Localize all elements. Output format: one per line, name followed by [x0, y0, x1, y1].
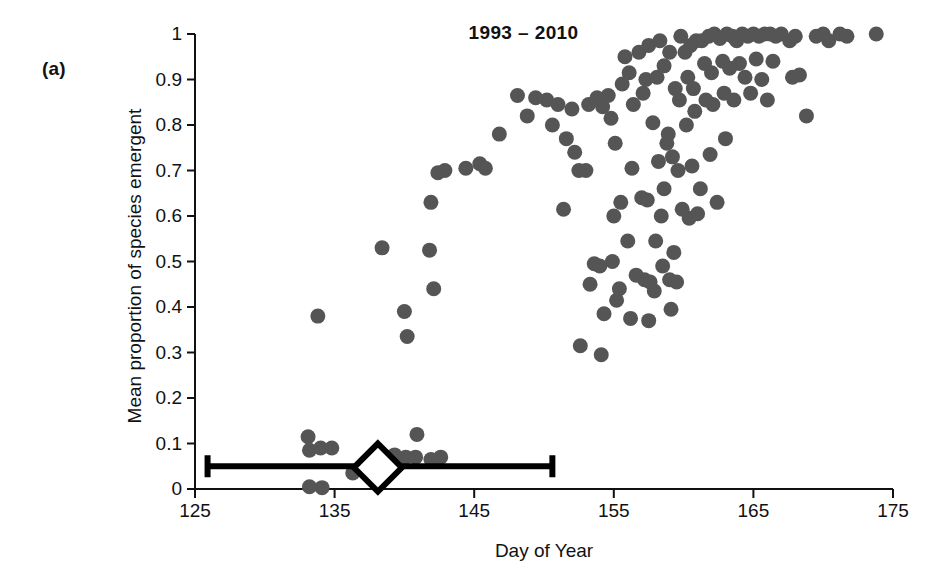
data-points-layer: [301, 27, 884, 496]
data-point: [710, 195, 725, 210]
data-point: [315, 480, 330, 495]
data-point: [651, 154, 666, 169]
data-point: [641, 313, 656, 328]
data-point: [478, 161, 493, 176]
summary-marker-layer: [208, 444, 553, 492]
data-point: [520, 108, 535, 123]
data-point: [550, 97, 565, 112]
data-point: [661, 127, 676, 142]
data-point: [397, 304, 412, 319]
figure-panel-a: (a) 1993 – 2010 Mean proportion of speci…: [0, 0, 947, 582]
data-point: [648, 234, 663, 249]
data-point: [665, 149, 680, 164]
data-point: [760, 92, 775, 107]
data-point: [684, 158, 699, 173]
data-point: [869, 27, 884, 42]
data-point: [606, 209, 621, 224]
data-point: [788, 29, 803, 44]
data-point: [556, 202, 571, 217]
data-point: [310, 309, 325, 324]
data-point: [624, 161, 639, 176]
data-point: [604, 111, 619, 126]
data-point: [686, 81, 701, 96]
data-point: [437, 163, 452, 178]
data-point: [583, 277, 598, 292]
data-point: [679, 118, 694, 133]
data-point: [423, 195, 438, 210]
data-point: [664, 302, 679, 317]
data-point: [749, 52, 764, 67]
data-point: [324, 441, 339, 456]
data-point: [645, 115, 660, 130]
data-point: [792, 67, 807, 82]
data-point: [765, 54, 780, 69]
data-point: [690, 206, 705, 221]
data-point: [605, 254, 620, 269]
data-point: [743, 86, 758, 101]
data-point: [738, 70, 753, 85]
data-point: [754, 72, 769, 87]
data-point: [669, 274, 684, 289]
data-point: [657, 181, 672, 196]
data-point: [626, 97, 641, 112]
data-point: [613, 195, 628, 210]
data-point: [375, 240, 390, 255]
data-point: [458, 161, 473, 176]
data-point: [492, 127, 507, 142]
data-point: [636, 86, 651, 101]
data-point: [528, 90, 543, 105]
data-point: [622, 65, 637, 80]
data-point: [671, 163, 686, 178]
data-point: [594, 347, 609, 362]
data-point: [799, 108, 814, 123]
data-point: [597, 306, 612, 321]
data-point: [705, 97, 720, 112]
data-point: [666, 245, 681, 260]
data-point: [672, 92, 687, 107]
data-point: [573, 338, 588, 353]
data-point: [703, 147, 718, 162]
data-point: [655, 259, 670, 274]
data-point: [408, 450, 423, 465]
data-point: [601, 88, 616, 103]
scatter-plot-canvas: [0, 0, 947, 582]
data-point: [620, 234, 635, 249]
data-point: [662, 45, 677, 60]
data-point: [704, 65, 719, 80]
data-point: [640, 193, 655, 208]
data-point: [657, 58, 672, 73]
data-point: [647, 284, 662, 299]
data-point: [564, 102, 579, 117]
data-point: [301, 429, 316, 444]
data-point: [617, 49, 632, 64]
data-point: [612, 281, 627, 296]
data-point: [426, 281, 441, 296]
data-point: [409, 427, 424, 442]
data-point: [578, 163, 593, 178]
data-point: [559, 131, 574, 146]
data-point: [732, 56, 747, 71]
data-point: [718, 131, 733, 146]
data-point: [510, 88, 525, 103]
data-point: [608, 136, 623, 151]
data-point: [726, 92, 741, 107]
data-point: [654, 209, 669, 224]
data-point: [839, 29, 854, 44]
data-point: [652, 33, 667, 48]
data-point: [675, 202, 690, 217]
data-point: [693, 181, 708, 196]
data-point: [673, 29, 688, 44]
data-point: [422, 243, 437, 258]
data-point: [567, 145, 582, 160]
data-point: [400, 329, 415, 344]
data-point: [545, 118, 560, 133]
data-point: [623, 311, 638, 326]
data-point: [687, 104, 702, 119]
